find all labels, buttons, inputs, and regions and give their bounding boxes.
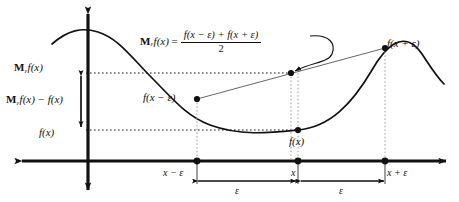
difference-operator-symbol: M (6, 93, 16, 105)
formula-operator-symbol: M (140, 35, 150, 47)
formula-equals-sign: = (172, 35, 178, 47)
mean-value-formula: Mεf(x) = f(x − ε) + f(x + ε) 2 (140, 30, 261, 54)
span-label-right: ε (339, 186, 343, 196)
point-marker-min (295, 127, 301, 133)
point-marker-midpoint (288, 70, 294, 76)
tick-label-left: x − ε (163, 168, 183, 178)
tick-label-right: x + ε (387, 168, 407, 178)
span-label-left: ε (235, 186, 239, 196)
epsilon-span-left (197, 163, 298, 184)
drop-line-center (291, 73, 298, 161)
formula-left-hand-side: Mεf(x) = (140, 36, 178, 48)
tick-label-center: x (291, 168, 295, 178)
label-point-right: f(x + ε) (387, 38, 420, 49)
label-function-value-level: f(x) (39, 127, 54, 138)
formula-numerator: f(x − ε) + f(x + ε) (181, 30, 261, 42)
formula-fraction: f(x − ε) + f(x + ε) 2 (181, 30, 261, 54)
epsilon-span-right (301, 163, 385, 184)
label-mean-value-level: Mεf(x) (14, 62, 43, 74)
point-marker-left (194, 96, 200, 102)
formula-denominator: 2 (218, 43, 223, 55)
mean-operator-symbol: M (14, 61, 24, 73)
label-point-left: f(x − ε) (143, 92, 176, 103)
formula-pointer-arrow (295, 36, 333, 71)
difference-expression: f(x) − f(x) (20, 93, 63, 105)
mean-operator-argument: f(x) (28, 61, 43, 73)
label-difference: Mεf(x) − f(x) (6, 94, 63, 106)
mean-value-operator-figure: Mεf(x) f(x) Mεf(x) − f(x) Mεf(x) = f(x −… (0, 0, 459, 202)
label-point-min: f(x) (289, 136, 304, 147)
formula-operator-argument: f(x) (154, 35, 169, 47)
